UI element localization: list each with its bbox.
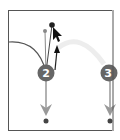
node-2-end-point[interactable]	[44, 119, 49, 124]
handle-point-selected[interactable]	[49, 22, 55, 28]
mouse-cursor-icon	[53, 27, 62, 42]
node-3-end-point[interactable]	[108, 119, 113, 124]
faint-connector-arc	[58, 42, 104, 64]
node-2-label: 2	[42, 67, 50, 80]
handle-point-small[interactable]	[43, 29, 47, 33]
diagram-canvas[interactable]: 2 3	[0, 0, 120, 140]
node-3-label: 3	[104, 67, 112, 80]
